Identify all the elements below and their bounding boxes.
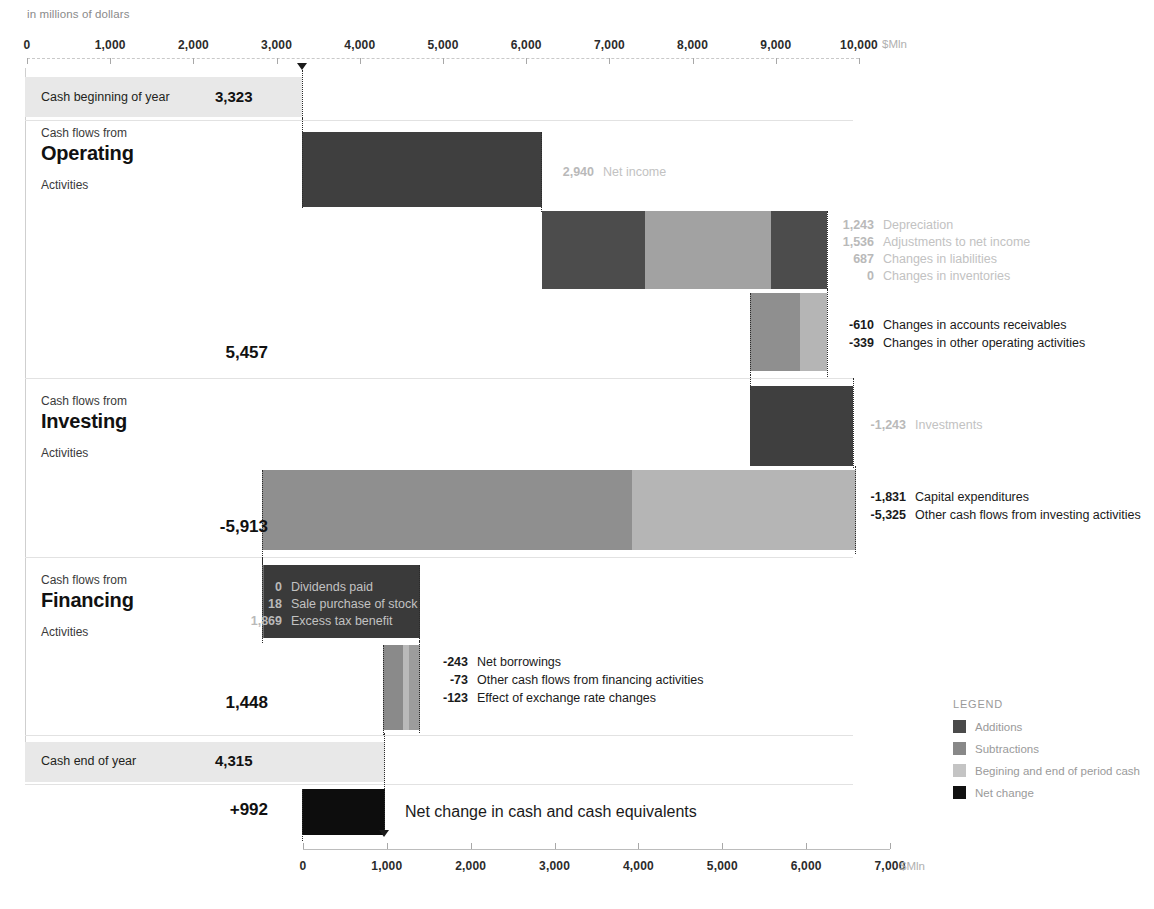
axis-tick-label: 6,000 xyxy=(791,859,822,873)
axis-tick-label: 9,000 xyxy=(760,38,791,52)
callout-adjustments-1: 1,536 Adjustments to net income xyxy=(836,235,1030,249)
callout-adjustments-3: 0 Changes in inventories xyxy=(836,269,1030,283)
legend-label: Additions xyxy=(975,721,1022,733)
connector-op-3 xyxy=(827,211,828,293)
callout-fin-sub-0: -243 Net borrowings xyxy=(432,655,703,669)
bar-seg-net-borrowings xyxy=(383,645,403,730)
legend-label: Subtractions xyxy=(975,743,1039,755)
callout-value: -610 xyxy=(836,318,874,332)
callout-group-op-subtractions: -610 Changes in accounts receivables -33… xyxy=(836,318,1085,350)
axis-tick-label: 4,000 xyxy=(344,38,375,52)
left-rule xyxy=(25,68,26,781)
callout-fin-add-1: 18 Sale purchase of stock xyxy=(240,597,417,611)
connector-op-1 xyxy=(302,118,303,208)
axis-tick xyxy=(526,58,527,64)
callout-value: -73 xyxy=(432,673,468,687)
callout-value: 0 xyxy=(240,580,282,594)
callout-value: -5,325 xyxy=(862,508,906,522)
bar-investing-subtractions xyxy=(262,470,856,550)
axis-tick-label: 5,000 xyxy=(427,38,458,52)
axis-tick-label: 0 xyxy=(300,859,307,873)
callout-label: Changes in liabilities xyxy=(883,252,997,266)
callout-value: 1,869 xyxy=(240,614,282,628)
callout-label: Depreciation xyxy=(883,218,953,232)
axis-tick-label: 3,000 xyxy=(539,859,570,873)
legend-title: LEGEND xyxy=(953,698,1140,710)
callout-label: Net income xyxy=(603,165,666,179)
axis-tick xyxy=(27,58,28,64)
bar-seg-net-change xyxy=(302,789,385,835)
bar-net-income xyxy=(302,132,542,207)
callout-group-inv-subtractions: -1,831 Capital expenditures -5,325 Other… xyxy=(862,490,1141,522)
net-change-label: Net change in cash and cash equivalents xyxy=(405,803,697,821)
connector-fin-3 xyxy=(383,645,384,735)
callout-label: Dividends paid xyxy=(291,580,373,594)
legend-swatch-icon xyxy=(953,720,966,733)
axis-tick xyxy=(471,843,472,849)
axis-tick-label: 1,000 xyxy=(95,38,126,52)
waterfall-chart: in millions of dollars 01,0002,0003,0004… xyxy=(0,0,1154,909)
connector-end-1 xyxy=(384,733,385,791)
section-financing-post: Activities xyxy=(41,625,88,639)
band-cash-beginning-label: Cash beginning of year xyxy=(41,90,170,104)
axis-tick xyxy=(555,843,556,849)
row-divider-1 xyxy=(25,120,853,121)
callout-label: Changes in inventories xyxy=(883,269,1010,283)
legend-swatch-icon xyxy=(953,786,966,799)
section-operating-main: Operating xyxy=(41,142,134,164)
top-axis-unit: $Mln xyxy=(882,38,907,50)
connector-nc-left xyxy=(302,789,303,841)
callout-label: Sale purchase of stock xyxy=(291,597,417,611)
connector-fin-2 xyxy=(419,565,420,645)
row-divider-4 xyxy=(25,735,853,736)
axis-tick xyxy=(387,843,388,849)
callout-label: Net borrowings xyxy=(477,655,561,669)
connector-inv-3 xyxy=(855,466,856,554)
callout-label: Excess tax benefit xyxy=(291,614,392,628)
row-divider-2 xyxy=(25,378,853,379)
subtotal-operating: 5,457 xyxy=(140,343,268,363)
bar-seg-capital-expenditures xyxy=(632,470,856,550)
callout-op-sub-0: -610 Changes in accounts receivables xyxy=(836,318,1085,332)
callout-value: 2,940 xyxy=(556,165,594,179)
axis-tick xyxy=(360,58,361,64)
axis-tick-label: 0 xyxy=(24,38,31,52)
callout-label: Effect of exchange rate changes xyxy=(477,691,656,705)
band-cash-end-value: 4,315 xyxy=(215,752,253,769)
bar-net-change xyxy=(302,789,385,835)
axis-tick-label: 5,000 xyxy=(707,859,738,873)
callout-value: 1,536 xyxy=(836,235,874,249)
callout-group-adjustments: 1,243 Depreciation 1,536 Adjustments to … xyxy=(836,218,1030,283)
bar-investments xyxy=(750,386,853,466)
axis-tick-label: 7,000 xyxy=(594,38,625,52)
section-operating-pre: Cash flows from xyxy=(41,126,127,140)
connector-inv-1 xyxy=(853,378,854,468)
axis-tick-label: 2,000 xyxy=(455,859,486,873)
axis-tick xyxy=(110,58,111,64)
axis-tick xyxy=(609,58,610,64)
callout-adjustments-0: 1,243 Depreciation xyxy=(836,218,1030,232)
axis-tick-label: 1,000 xyxy=(371,859,402,873)
band-cash-beginning-value: 3,323 xyxy=(215,88,253,105)
callout-inv-sub-0: -1,831 Capital expenditures xyxy=(862,490,1141,504)
bar-financing-subtractions xyxy=(383,645,420,730)
chart-subtitle: in millions of dollars xyxy=(27,8,130,20)
connector-op-4 xyxy=(750,293,751,375)
axis-tick xyxy=(859,58,860,64)
row-divider-3 xyxy=(25,557,853,558)
subtotal-financing: 1,448 xyxy=(140,693,268,713)
legend-label: Begining and end of period cash xyxy=(975,765,1140,777)
section-investing-pre: Cash flows from xyxy=(41,394,127,408)
bar-seg-changes-other-operating xyxy=(800,293,827,371)
bar-operating-additions xyxy=(542,211,827,289)
callout-value: -243 xyxy=(432,655,468,669)
axis-tick xyxy=(776,58,777,64)
callout-value: 0 xyxy=(836,269,874,283)
callout-label: Changes in accounts receivables xyxy=(883,318,1066,332)
axis-tick xyxy=(806,843,807,849)
callout-value: 687 xyxy=(836,252,874,266)
legend-item-2: Begining and end of period cash xyxy=(953,764,1140,777)
legend-label: Net change xyxy=(975,787,1034,799)
legend-item-0: Additions xyxy=(953,720,1140,733)
callout-label: Changes in other operating activities xyxy=(883,336,1085,350)
